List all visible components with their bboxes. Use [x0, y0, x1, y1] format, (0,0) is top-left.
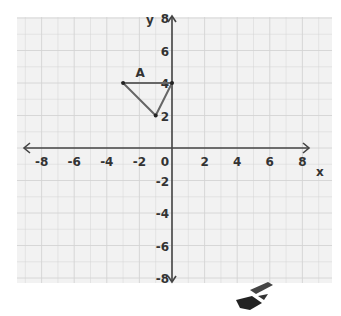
x-tick-label: 6 — [266, 155, 274, 169]
x-tick-label: 0 — [161, 155, 169, 169]
y-tick-label: -2 — [156, 175, 169, 189]
y-tick-label: 8 — [161, 12, 169, 26]
coordinate-plane: -8-6-4-2024688642-2-4-6-8 A x y — [0, 0, 341, 316]
x-tick-label: -8 — [35, 155, 48, 169]
x-tick-label: 8 — [298, 155, 306, 169]
x-tick-label: -4 — [100, 155, 113, 169]
x-tick-label: -2 — [133, 155, 146, 169]
x-axis-label: x — [316, 165, 324, 179]
x-tick-label: -6 — [68, 155, 81, 169]
grid-panel — [17, 17, 332, 283]
shape-label: A — [135, 66, 145, 80]
y-tick-label: -8 — [156, 272, 169, 286]
y-axis-label: y — [146, 13, 154, 27]
y-tick-label: -4 — [156, 207, 169, 221]
y-tick-label: 6 — [161, 45, 169, 59]
x-tick-label: 2 — [200, 155, 208, 169]
decorative-fish-icon — [236, 282, 273, 310]
y-tick-label: -6 — [156, 240, 169, 254]
y-tick-label: 2 — [161, 110, 169, 124]
x-tick-label: 4 — [233, 155, 241, 169]
